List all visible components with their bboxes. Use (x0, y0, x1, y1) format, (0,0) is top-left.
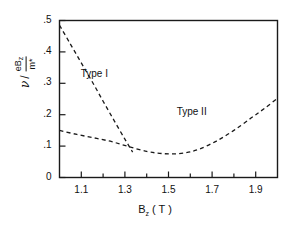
y-tick-label: .4 (28, 45, 52, 56)
x-tick-label: 1.1 (66, 184, 96, 195)
x-tick-label: 1.9 (241, 184, 271, 195)
series-line-type-ii (60, 98, 278, 154)
denominator-m: m (26, 62, 36, 70)
x-axis-subscript: z (146, 210, 150, 217)
y-axis-label: ν / eBz m* (2, 30, 48, 120)
x-axis-symbol: B (138, 203, 145, 215)
numerator-subscript: z (17, 57, 24, 61)
numerator-e: e (13, 66, 23, 71)
y-tick-label: .2 (28, 108, 52, 119)
x-tick-label: 1.3 (110, 184, 140, 195)
numerator-b: B (13, 60, 23, 66)
y-tick-label: .5 (28, 14, 52, 25)
curve-label-type-i: Type I (81, 68, 108, 79)
x-axis-unit: ( T ) (152, 203, 172, 215)
y-tick-label: .1 (28, 139, 52, 150)
x-axis-ticks (81, 172, 255, 178)
x-tick-label: 1.7 (197, 184, 227, 195)
curve-label-type-ii: Type II (177, 106, 207, 117)
x-tick-label: 1.5 (154, 184, 184, 195)
y-tick-label: .3 (28, 76, 52, 87)
y-axis-fraction-numerator: eBz (14, 55, 26, 74)
y-axis-ticks (60, 21, 66, 178)
y-axis-fraction: eBz m* (14, 55, 37, 74)
denominator-star: * (26, 59, 36, 63)
y-tick-label: 0 (28, 171, 52, 182)
x-axis-label: Bz ( T ) (0, 203, 290, 217)
figure-container: ν / eBz m* Bz ( T ) .5.4.3.2.10 1.11.31.… (0, 0, 290, 230)
y-axis-fraction-denominator: m* (25, 57, 36, 72)
